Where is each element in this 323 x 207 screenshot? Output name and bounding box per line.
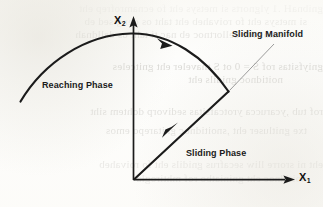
scanned-figure-page: gnibnaH .1 ylgnorts si metsys eht fo ecn… — [0, 0, 323, 207]
sliding-phase-label: Sliding Phase — [186, 148, 246, 158]
y-axis — [129, 16, 137, 180]
x-axis-label: X1 — [299, 171, 310, 183]
reaching-phase-trajectory — [21, 33, 229, 101]
x-axis-label-text: X — [299, 171, 306, 183]
sliding-manifold-label: Sliding Manifold — [232, 29, 303, 39]
y-axis-label-subscript: 2 — [122, 20, 126, 27]
reaching-phase-label: Reaching Phase — [42, 80, 113, 90]
sliding-manifold-leader-line — [230, 44, 275, 91]
x-axis-arrowhead — [283, 175, 295, 183]
sliding-phase-line — [134, 92, 228, 180]
sliding-phase-arrowhead — [162, 123, 178, 138]
x-axis-label-subscript: 1 — [307, 177, 311, 184]
y-axis-label: X2 — [114, 14, 125, 26]
y-axis-label-text: X — [114, 14, 121, 26]
x-axis — [134, 175, 296, 183]
